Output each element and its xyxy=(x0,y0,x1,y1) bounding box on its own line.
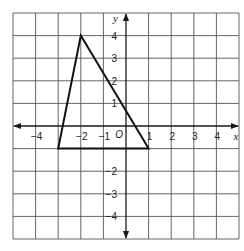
x-tick-label: −4 xyxy=(31,131,43,142)
x-tick-label: −2 xyxy=(76,131,88,142)
tick-labels: −4−2−112344321−2−3−4xyO xyxy=(31,12,239,222)
y-axis-label: y xyxy=(112,12,118,24)
y-tick-label: −4 xyxy=(106,211,118,222)
x-tick-label: 3 xyxy=(192,131,198,142)
axes xyxy=(14,14,238,238)
y-tick-label: 1 xyxy=(111,98,117,109)
y-tick-label: 4 xyxy=(111,31,117,42)
x-tick-label: 1 xyxy=(147,131,153,142)
x-tick-label: −1 xyxy=(99,131,111,142)
x-tick-label: 4 xyxy=(215,131,221,142)
x-tick-label: 2 xyxy=(169,131,175,142)
coordinate-plane: −4−2−112344321−2−3−4xyO xyxy=(0,0,244,251)
x-axis-label: x xyxy=(233,130,239,142)
y-tick-label: 2 xyxy=(111,76,117,87)
origin-label: O xyxy=(115,129,123,140)
y-tick-label: −2 xyxy=(106,166,118,177)
y-tick-label: 3 xyxy=(111,53,117,64)
y-tick-label: −3 xyxy=(106,189,118,200)
